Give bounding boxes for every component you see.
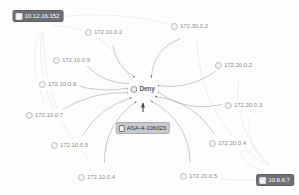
- graph-edge: [157, 69, 219, 86]
- graph-node-label: 10.12.16.152: [25, 12, 60, 20]
- graph-edge: [113, 45, 135, 77]
- graph-edge-layer: [0, 0, 299, 195]
- circle-node-icon: [225, 102, 232, 109]
- graph-node-label: 172.10.0.4: [87, 173, 115, 181]
- circle-node-icon: [130, 86, 137, 93]
- graph-edge: [249, 118, 269, 165]
- graph-node-label: 172.20.0.2: [224, 61, 252, 69]
- graph-node-n-172-10-0-4[interactable]: 172.10.0.4: [75, 171, 119, 183]
- graph-node-n-172-20-0-4[interactable]: 172.20.0.4: [206, 137, 250, 149]
- graph-node-label: Deny: [139, 85, 154, 93]
- circle-node-icon: [78, 174, 85, 181]
- circle-node-icon: [215, 62, 222, 69]
- circle-node-icon: [180, 173, 187, 180]
- graph-node-n-172-20-0-5[interactable]: 172.20.0.5: [177, 170, 221, 182]
- graph-node-n-172-10-0-9[interactable]: 172.10.0.9: [50, 54, 94, 66]
- graph-node-n-172-10-0-8[interactable]: 172.10.0.8: [36, 78, 80, 90]
- graph-node-label: 172.10.0.7: [35, 111, 63, 119]
- graph-node-label: 172.20.0.3: [234, 101, 262, 109]
- graph-node-n-172-20-0-3[interactable]: 172.20.0.3: [222, 99, 266, 111]
- graph-node-n-10-12-16-152[interactable]: 10.12.16.152: [13, 10, 64, 22]
- graph-node-n-asa-4-106023[interactable]: ASA-4-106023: [116, 122, 170, 134]
- graph-node-label: 172.30.0.2: [180, 22, 208, 30]
- graph-edge: [239, 152, 262, 170]
- graph-node-deny[interactable]: Deny: [127, 83, 158, 95]
- circle-node-icon: [26, 112, 33, 119]
- circle-node-icon: [85, 29, 92, 36]
- circle-node-icon: [209, 140, 216, 147]
- graph-edge: [87, 66, 130, 84]
- graph-node-n-172-10-0-2[interactable]: 172.10.0.2: [82, 26, 126, 38]
- graph-node-label: 10.8.8.7: [268, 176, 290, 184]
- circle-node-icon: [53, 57, 60, 64]
- circle-node-icon: [39, 81, 46, 88]
- graph-node-n-172-30-0-2[interactable]: 172.30.0.2: [168, 20, 212, 32]
- graph-edge: [151, 39, 180, 78]
- graph-node-label: 172.10.0.2: [94, 28, 122, 36]
- graph-edge: [238, 78, 270, 165]
- network-graph-canvas[interactable]: Deny10.12.16.152172.10.0.2172.30.0.2172.…: [0, 0, 299, 195]
- graph-node-label: ASA-4-106023: [127, 124, 166, 132]
- graph-edge: [157, 91, 228, 107]
- graph-node-label: 172.10.0.9: [62, 56, 90, 64]
- graph-edge: [60, 92, 129, 110]
- graph-node-label: 172.10.0.5: [60, 141, 88, 149]
- graph-edge: [34, 32, 44, 101]
- graph-node-label: 172.10.0.8: [48, 80, 76, 88]
- graph-node-label: 172.20.0.5: [189, 172, 217, 180]
- graph-node-label: 172.20.0.4: [218, 139, 246, 147]
- graph-edge: [54, 15, 176, 25]
- circle-node-icon: [171, 23, 178, 30]
- circle-node-icon: [51, 142, 58, 149]
- graph-node-n-10-8-8-7[interactable]: 10.8.8.7: [256, 174, 294, 186]
- square-node-icon: [259, 177, 266, 184]
- graph-node-n-172-10-0-5[interactable]: 172.10.0.5: [48, 139, 92, 151]
- square-node-icon: [16, 13, 23, 20]
- graph-node-n-172-10-0-7[interactable]: 172.10.0.7: [23, 109, 67, 121]
- graph-node-n-172-20-0-2[interactable]: 172.20.0.2: [212, 59, 256, 71]
- event-node-icon: [119, 125, 125, 132]
- graph-edge: [74, 85, 129, 90]
